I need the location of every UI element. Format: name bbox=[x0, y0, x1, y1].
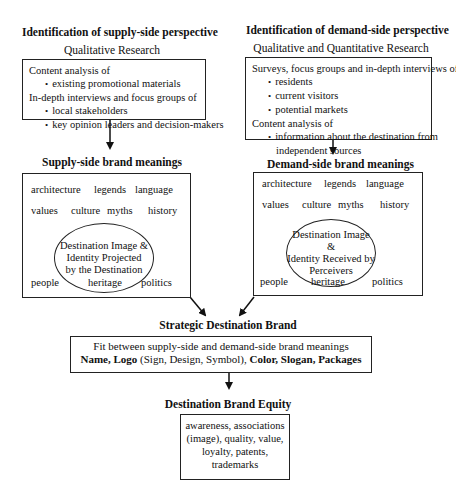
equity-line: awareness, associations bbox=[183, 419, 287, 432]
supply-research-method: Qualitative Research bbox=[0, 44, 224, 56]
supply-meanings-title: Supply-side brand meanings bbox=[42, 156, 182, 168]
research-bullet: local stakeholders bbox=[29, 104, 199, 118]
meaning-word: people bbox=[260, 276, 288, 287]
core-line: Identity Received by bbox=[287, 253, 375, 265]
research-bullet: existing promotional materials bbox=[29, 77, 199, 91]
brand-equity-box: awareness, associations (image), quality… bbox=[180, 414, 290, 480]
core-line: Destination Image & bbox=[287, 229, 375, 253]
supply-meanings-box: architecture legends language values cul… bbox=[22, 173, 191, 298]
meaning-word: language bbox=[135, 184, 173, 195]
meaning-word: architecture bbox=[31, 184, 81, 195]
meaning-word: legends bbox=[94, 184, 126, 195]
demand-research-method: Qualitative and Quantitative Research bbox=[226, 42, 456, 54]
strategic-elements-line: Name, Logo (Sign, Design, Symbol), Color… bbox=[75, 353, 367, 366]
research-line: In-depth interviews and focus groups of bbox=[29, 91, 199, 104]
meaning-word: values bbox=[262, 199, 289, 210]
strategic-brand-title: Strategic Destination Brand bbox=[0, 319, 456, 331]
research-line: independent sources bbox=[252, 144, 425, 157]
research-line: Content analysis of bbox=[29, 64, 199, 77]
sign-design-symbol-label: (Sign, Design, Symbol), bbox=[137, 353, 249, 365]
strategic-brand-box: Fit between supply-side and demand-side … bbox=[70, 336, 372, 373]
meaning-word: language bbox=[366, 178, 404, 189]
meaning-word: heritage bbox=[311, 276, 345, 287]
supply-side-heading: Identification of supply-side perspectiv… bbox=[22, 26, 218, 38]
meaning-word: legends bbox=[324, 178, 356, 189]
core-line: by the Destination bbox=[60, 264, 148, 276]
research-line: Content analysis of bbox=[252, 117, 425, 130]
meaning-word: politics bbox=[141, 277, 172, 288]
research-bullet: key opinion leaders and decision-makers bbox=[29, 118, 199, 132]
research-line: Surveys, focus groups and in-depth inter… bbox=[252, 62, 425, 75]
meaning-word: people bbox=[31, 277, 59, 288]
core-line: Destination Image & bbox=[60, 240, 148, 252]
equity-line: trademarks bbox=[183, 458, 287, 471]
meaning-word: values bbox=[31, 205, 58, 216]
meaning-word: myths bbox=[107, 205, 133, 216]
demand-research-box: Surveys, focus groups and in-depth inter… bbox=[245, 57, 432, 140]
meaning-word: culture bbox=[71, 205, 100, 216]
meaning-word: architecture bbox=[262, 178, 312, 189]
demand-side-heading: Identification of demand-side perspectiv… bbox=[246, 24, 449, 36]
equity-line: loyalty, patents, bbox=[183, 445, 287, 458]
meaning-word: myths bbox=[338, 199, 364, 210]
research-bullet: current visitors bbox=[252, 89, 425, 103]
name-logo-label: Name, Logo bbox=[80, 353, 137, 365]
core-line: Identity Projected bbox=[60, 252, 148, 264]
meaning-word: culture bbox=[302, 199, 331, 210]
color-slogan-packages-label: Color, Slogan, Packages bbox=[249, 353, 361, 365]
research-bullet: potential markets bbox=[252, 103, 425, 117]
meaning-word: history bbox=[380, 199, 409, 210]
equity-line: (image), quality, value, bbox=[183, 432, 287, 445]
demand-meanings-box: architecture legends language values cul… bbox=[253, 172, 423, 296]
demand-meanings-title: Demand-side brand meanings bbox=[267, 158, 414, 170]
meaning-word: heritage bbox=[88, 277, 122, 288]
strategic-fit-line: Fit between supply-side and demand-side … bbox=[75, 340, 367, 353]
brand-equity-title: Destination Brand Equity bbox=[0, 398, 456, 410]
meaning-word: history bbox=[148, 205, 177, 216]
research-bullet: residents bbox=[252, 75, 425, 89]
research-bullet: information about the destination from bbox=[252, 130, 425, 144]
supply-research-box: Content analysis of existing promotional… bbox=[22, 59, 206, 120]
meaning-word: politics bbox=[372, 276, 403, 287]
